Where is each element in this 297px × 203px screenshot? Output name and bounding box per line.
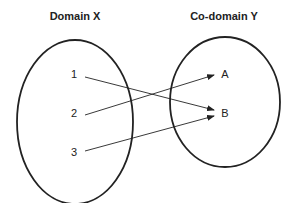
domain-element-1: 1 <box>71 68 77 80</box>
domain-title: Domain X <box>50 10 101 22</box>
arrow-2-to-a <box>85 75 214 115</box>
domain-element-3: 3 <box>71 146 77 158</box>
codomain-element-a: A <box>221 68 229 80</box>
arrow-1-to-b <box>85 77 214 110</box>
mapping-diagram: Domain X Co-domain Y 1 2 3 A B <box>0 0 297 203</box>
codomain-element-b: B <box>221 107 228 119</box>
arrow-3-to-b <box>85 116 214 151</box>
domain-element-2: 2 <box>71 107 77 119</box>
domain-set-ellipse <box>17 40 133 203</box>
codomain-set-ellipse <box>170 37 280 167</box>
codomain-title: Co-domain Y <box>190 10 258 22</box>
